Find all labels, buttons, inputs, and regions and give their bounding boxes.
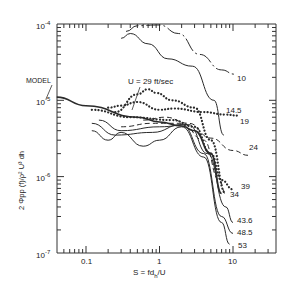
y-axis-labels: 10-4 10-5 10-6 10-7 bbox=[36, 20, 51, 260]
curve-label-19: 19 bbox=[240, 117, 249, 126]
y-label-1e-4: 10-4 bbox=[36, 20, 51, 31]
curve-29 bbox=[115, 89, 226, 193]
speed-arrow bbox=[132, 87, 140, 110]
curve-label-24: 24 bbox=[249, 143, 258, 152]
curve-labels: 1014.51924393443.648.553 bbox=[226, 74, 258, 250]
x-axis-title: S = fdh/U bbox=[133, 268, 166, 279]
curve-label-48-5: 48.5 bbox=[237, 228, 253, 237]
curve-label-10: 10 bbox=[237, 74, 246, 83]
model-annotation: MODEL bbox=[26, 77, 51, 84]
y-label-1e-5: 10-5 bbox=[36, 96, 51, 107]
curve-34 bbox=[121, 123, 226, 194]
x-label-1: 1 bbox=[157, 257, 162, 266]
curve-label-39: 39 bbox=[241, 182, 250, 191]
x-label-0.1: 0.1 bbox=[81, 257, 93, 266]
data-curves bbox=[57, 25, 248, 244]
curve-label-34: 34 bbox=[230, 190, 239, 199]
spectrum-chart: MODEL U = 29 ft/sec 1014.51924393443.648… bbox=[0, 0, 290, 295]
curve-label-53: 53 bbox=[238, 241, 247, 250]
y-axis-title: 2 Φpp (f)/ρ² U³ dh bbox=[17, 151, 26, 210]
curve-10 bbox=[126, 25, 235, 74]
x-axis-labels: 0.1 1 10 bbox=[81, 257, 237, 266]
y-label-1e-7: 10-7 bbox=[36, 249, 51, 260]
curve-19 bbox=[108, 102, 239, 116]
x-label-10: 10 bbox=[228, 257, 237, 266]
curve-label-43-6: 43.6 bbox=[237, 216, 253, 225]
curve-53 bbox=[92, 127, 230, 244]
curve-label-14-5: 14.5 bbox=[226, 106, 242, 115]
speed-annotation: U = 29 ft/sec bbox=[128, 77, 173, 86]
y-label-1e-6: 10-6 bbox=[36, 172, 51, 183]
